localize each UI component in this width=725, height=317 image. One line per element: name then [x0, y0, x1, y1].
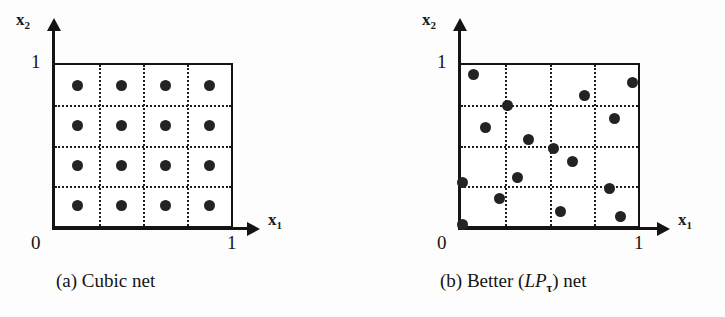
y-tick-one-b: 1: [437, 51, 447, 73]
y-axis-label-text-a: x: [16, 10, 25, 29]
x-axis-label-sub-a: 1: [277, 219, 283, 231]
x-axis-arrow-b: [657, 222, 670, 236]
y-axis-label-sub-a: 2: [25, 19, 31, 31]
x-axis-arrow-a: [247, 222, 260, 236]
data-point: [502, 100, 513, 111]
data-point: [548, 143, 559, 154]
data-point: [204, 200, 215, 211]
data-point: [204, 80, 215, 91]
data-point: [160, 80, 171, 91]
caption-b-after: ) net: [552, 270, 586, 291]
data-point: [204, 160, 215, 171]
data-point: [116, 120, 127, 131]
y-axis-label-sub-b: 2: [431, 19, 437, 31]
origin-tick-b: 0: [437, 232, 447, 254]
y-tick-one-a: 1: [31, 51, 41, 73]
gridline-vertical: [187, 65, 189, 226]
data-point: [160, 120, 171, 131]
data-point: [609, 113, 620, 124]
data-point: [116, 80, 127, 91]
x-axis-label-text-b: x: [678, 210, 687, 229]
gridline-vertical: [99, 65, 101, 226]
data-point: [615, 211, 626, 222]
panel-lptau-net: x2 x1 1 0 1 (b) Better (LPτ) net: [362, 0, 724, 317]
y-axis-label-a: x2: [16, 10, 30, 31]
data-point: [494, 193, 505, 204]
data-point: [468, 69, 479, 80]
data-point: [512, 172, 523, 183]
y-axis-label-b: x2: [422, 10, 436, 31]
data-point: [555, 206, 566, 217]
y-axis-arrow-b: [453, 18, 467, 31]
gridline-vertical: [594, 65, 596, 226]
data-point: [604, 183, 615, 194]
data-point: [160, 160, 171, 171]
data-point: [72, 160, 83, 171]
x-axis-label-a: x1: [268, 210, 282, 231]
x-axis-label-sub-b: 1: [687, 219, 693, 231]
gridline-vertical: [505, 65, 507, 226]
caption-panel-b: (b) Better (LPτ) net: [440, 270, 586, 296]
caption-b-italic: LP: [524, 270, 546, 291]
data-point: [627, 77, 638, 88]
plot-area-lptau: [459, 63, 640, 228]
x-axis-label-b: x1: [678, 210, 692, 231]
data-point: [523, 134, 534, 145]
caption-b-before: (b) Better (: [440, 270, 524, 291]
gridline-vertical: [143, 65, 145, 226]
figure-root: x2 x1 1 0 1 (a) Cubic net x2 x1 1 0 1: [0, 0, 725, 317]
x-tick-one-b: 1: [634, 232, 644, 254]
data-point: [160, 200, 171, 211]
origin-tick-a: 0: [31, 232, 41, 254]
data-point: [116, 160, 127, 171]
data-point: [72, 200, 83, 211]
data-point: [204, 120, 215, 131]
y-axis-arrow-a: [47, 18, 61, 31]
data-point: [116, 200, 127, 211]
x-axis-label-text-a: x: [268, 210, 277, 229]
data-point: [567, 156, 578, 167]
panel-cubic-net: x2 x1 1 0 1 (a) Cubic net: [0, 0, 362, 317]
data-point: [72, 120, 83, 131]
caption-panel-a: (a) Cubic net: [56, 270, 155, 292]
data-point: [72, 80, 83, 91]
y-axis-label-text-b: x: [422, 10, 431, 29]
data-point: [579, 90, 590, 101]
plot-area-cubic: [53, 63, 233, 228]
data-point: [480, 122, 491, 133]
x-tick-one-a: 1: [227, 232, 237, 254]
